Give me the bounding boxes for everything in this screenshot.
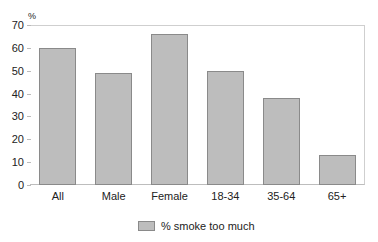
y-tick-label: 10 bbox=[0, 156, 24, 168]
y-tick-mark bbox=[27, 139, 31, 140]
y-tick-mark bbox=[27, 48, 31, 49]
legend-label: % smoke too much bbox=[161, 220, 255, 232]
y-tick-label: 40 bbox=[0, 88, 24, 100]
y-tick-label: 70 bbox=[0, 19, 24, 31]
bar-65- bbox=[319, 155, 356, 185]
y-tick-label: 0 bbox=[0, 179, 24, 191]
y-tick-label: 20 bbox=[0, 133, 24, 145]
plot-area bbox=[30, 25, 365, 185]
x-tick-label: All bbox=[28, 190, 88, 202]
y-axis-unit: % bbox=[28, 11, 36, 21]
x-tick-label: 65+ bbox=[307, 190, 367, 202]
legend-swatch bbox=[138, 221, 155, 231]
bar-18-34 bbox=[207, 71, 244, 185]
bar-female bbox=[151, 34, 188, 185]
x-tick-label: 18-34 bbox=[195, 190, 255, 202]
y-tick-mark bbox=[27, 94, 31, 95]
bar-all bbox=[39, 48, 76, 185]
legend: % smoke too much bbox=[138, 220, 255, 232]
y-tick-mark bbox=[27, 116, 31, 117]
y-tick-label: 60 bbox=[0, 42, 24, 54]
y-tick-mark bbox=[27, 71, 31, 72]
y-tick-mark bbox=[27, 162, 31, 163]
bar-35-64 bbox=[263, 98, 300, 185]
bar-male bbox=[95, 73, 132, 185]
x-tick-label: Male bbox=[84, 190, 144, 202]
y-tick-mark bbox=[27, 25, 31, 26]
x-tick-label: 35-64 bbox=[251, 190, 311, 202]
x-tick-label: Female bbox=[140, 190, 200, 202]
y-tick-label: 50 bbox=[0, 65, 24, 77]
y-tick-label: 30 bbox=[0, 110, 24, 122]
y-tick-mark bbox=[27, 185, 31, 186]
